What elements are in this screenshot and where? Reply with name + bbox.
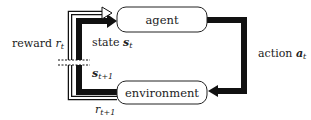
agent-label: agent [145,13,178,27]
next-state-label: st+1 [92,67,113,81]
next-reward-label: rt+1 [95,103,115,117]
action-arrow [207,20,244,97]
agent-node: agent [117,7,207,32]
state-label: state st [92,36,133,50]
environment-node: environment [117,81,207,104]
action-label: action at [258,47,307,61]
time-break [58,60,90,65]
rl-loop-diagram: agent environment reward rt state st st+… [0,0,311,120]
environment-label: environment [125,86,199,100]
reward-label: reward rt [12,37,65,51]
